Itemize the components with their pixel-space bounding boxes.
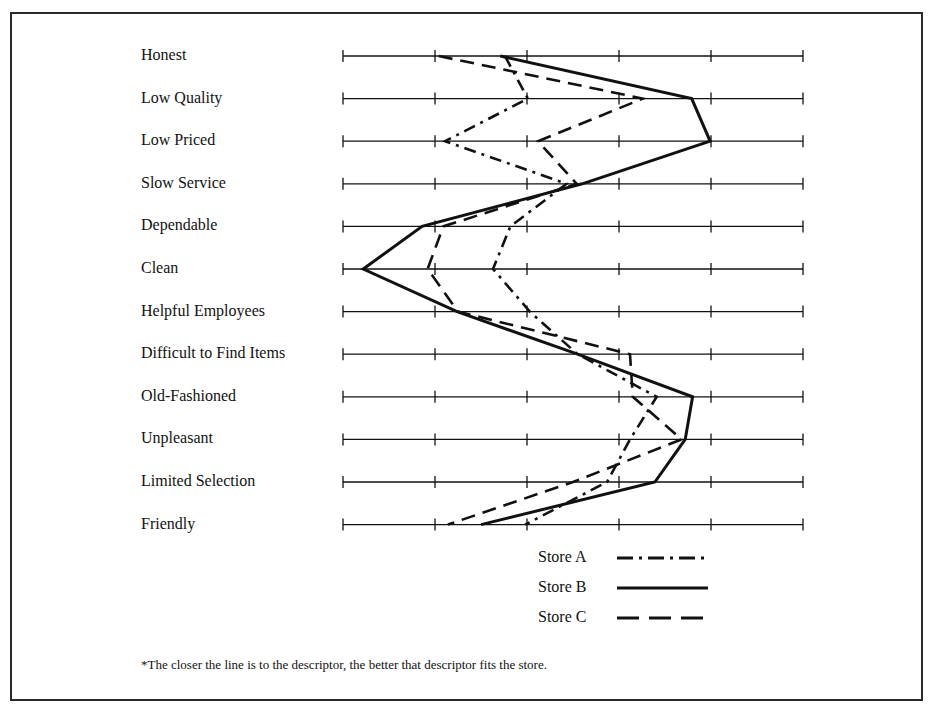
legend-label: Store A (538, 548, 586, 566)
legend-label: Store C (538, 608, 586, 626)
series-line-store-c (428, 56, 682, 525)
footnote: *The closer the line is to the descripto… (141, 657, 547, 673)
series-line-store-a (445, 56, 657, 525)
legend-label: Store B (538, 578, 586, 596)
profile-plot (0, 0, 939, 714)
series-line-store-b (363, 56, 710, 525)
